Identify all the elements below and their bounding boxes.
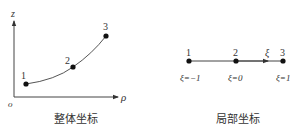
local-node-1-label: 1 [186, 47, 191, 58]
global-node-2-label: 2 [65, 55, 70, 66]
local-node-2-coord: ξ=0 [228, 73, 243, 83]
global-node-2 [70, 64, 75, 69]
local-node-3-label: 3 [280, 47, 285, 58]
local-node-2-label: 2 [233, 47, 238, 58]
global-node-3-label: 3 [103, 21, 108, 32]
origin-label: o [8, 99, 13, 109]
z-axis-label: z [10, 8, 15, 19]
local-coordinate-diagram: ξ 1 2 3 ξ=−1 ξ=0 ξ=1 局部坐标 [180, 47, 290, 126]
global-coordinate-diagram: z ρ o 1 2 3 整体坐标 [8, 8, 126, 126]
element-coordinate-diagram: z ρ o 1 2 3 整体坐标 ξ 1 2 3 ξ=−1 ξ=0 ξ=1 局部… [0, 0, 298, 138]
local-node-1 [186, 58, 191, 63]
global-node-1 [23, 81, 28, 86]
global-caption: 整体坐标 [54, 112, 98, 126]
local-node-3-coord: ξ=1 [276, 73, 290, 83]
local-node-3 [280, 58, 285, 63]
global-node-3 [103, 33, 108, 38]
global-node-1-label: 1 [21, 70, 26, 81]
local-node-2 [233, 58, 238, 63]
local-caption: 局部坐标 [216, 112, 260, 126]
local-node-1-coord: ξ=−1 [180, 73, 201, 83]
rho-axis-label: ρ [120, 91, 126, 103]
xi-axis-label: ξ [265, 47, 270, 59]
